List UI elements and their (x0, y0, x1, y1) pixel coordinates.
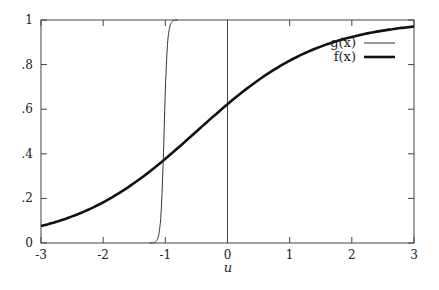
series-g-line (150, 20, 178, 243)
x-tick-label: -1 (159, 248, 171, 262)
legend-label-g: g(x) (330, 35, 356, 50)
y-tick-label: .6 (22, 102, 33, 116)
y-tick-label: .8 (22, 58, 33, 72)
x-tick-label: -3 (35, 248, 47, 262)
chart: -3-2-101230.2.4.6.81 g(x) f(x) u (0, 0, 439, 290)
y-tick-label: .2 (22, 191, 33, 205)
plot-frame (41, 20, 414, 243)
axis-ticks: -3-2-101230.2.4.6.81 (22, 13, 418, 262)
y-tick-label: 1 (25, 13, 33, 27)
x-tick-label: 3 (410, 248, 418, 262)
y-tick-label: 0 (25, 236, 33, 250)
x-axis-title: u (224, 260, 232, 275)
x-tick-label: 2 (348, 248, 356, 262)
x-tick-label: -2 (97, 248, 109, 262)
x-tick-label: 1 (286, 248, 294, 262)
y-tick-label: .4 (22, 147, 34, 161)
legend: g(x) f(x) (330, 35, 395, 64)
legend-label-f: f(x) (334, 49, 356, 64)
